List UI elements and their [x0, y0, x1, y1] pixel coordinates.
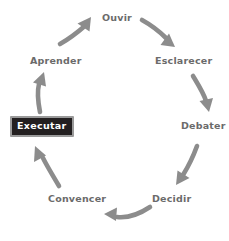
arrow-aprender-to-ouvir: [60, 17, 91, 44]
node-executar[interactable]: Executar: [10, 116, 74, 137]
cycle-diagram: .arrow-stroke { stroke: #8c8c8c; fill: n…: [0, 0, 229, 241]
arrow-debater-to-decidir: [176, 146, 197, 185]
node-debater[interactable]: Debater: [181, 121, 226, 131]
node-esclarecer[interactable]: Esclarecer: [155, 56, 212, 66]
node-aprender[interactable]: Aprender: [30, 56, 82, 66]
arrow-convencer-to-executar: [34, 146, 59, 186]
node-convencer[interactable]: Convencer: [48, 194, 106, 204]
arrow-decidir-to-convencer: [104, 207, 150, 221]
arrow-executar-to-aprender: [33, 72, 46, 112]
node-decidir[interactable]: Decidir: [152, 194, 191, 204]
arrow-ouvir-to-esclarecer: [142, 20, 175, 47]
node-ouvir[interactable]: Ouvir: [102, 13, 132, 23]
arrow-esclarecer-to-debater: [193, 76, 213, 112]
